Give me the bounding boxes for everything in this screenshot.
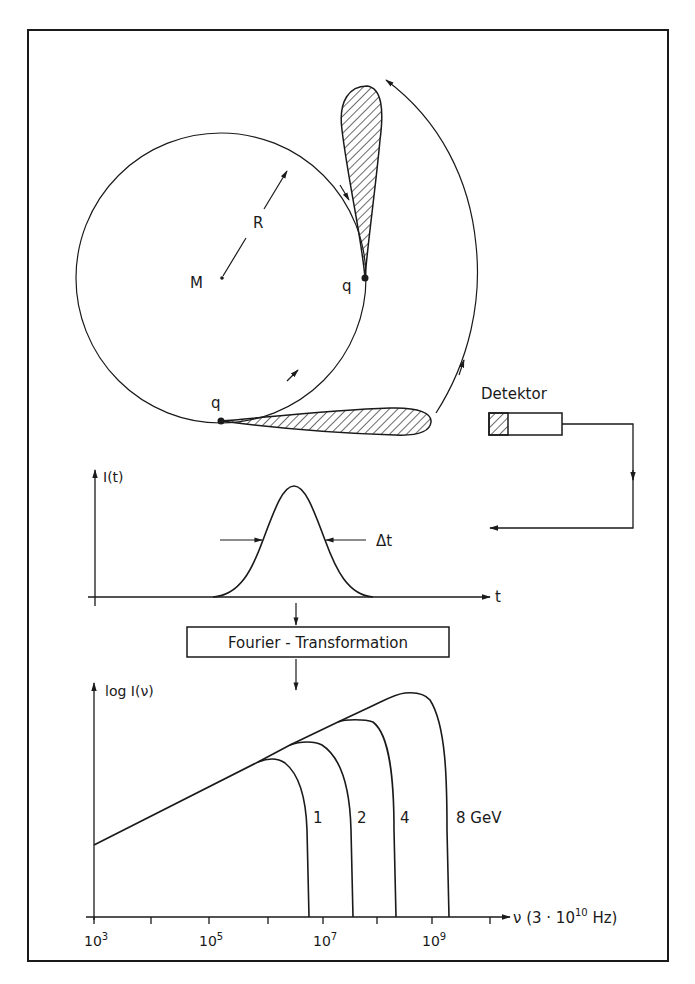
spectrum-x-ticks xyxy=(94,917,490,924)
spectrum-curve-8gev xyxy=(405,693,449,917)
tick-label-1e9: 109 xyxy=(422,931,446,949)
fourier-label: Fourier - Transformation xyxy=(228,634,408,652)
pulse-plot: I(t) t Δt xyxy=(88,469,501,606)
detector-window-hatched xyxy=(489,413,508,435)
spectrum-x-label: ν (3 · 1010 Hz) xyxy=(513,907,617,927)
pulse-x-label: t xyxy=(495,588,501,606)
orbit-direction-arrow-bottom xyxy=(287,370,298,381)
charge-point-upper xyxy=(362,275,369,282)
detector-signal-line xyxy=(490,424,633,528)
center-label: M xyxy=(190,274,203,292)
spectrum-curve-1gev xyxy=(258,759,309,917)
radiation-path-arc xyxy=(386,80,477,413)
curve-label-4: 4 xyxy=(400,809,410,827)
radius-arrow xyxy=(264,171,287,209)
spectrum-curve-4gev xyxy=(338,720,396,917)
curve-label-1: 1 xyxy=(313,809,323,827)
pulse-y-label: I(t) xyxy=(103,469,124,485)
charge-label-lower: q xyxy=(211,394,221,412)
radiation-lobe-upper xyxy=(341,86,382,278)
center-point xyxy=(220,276,224,280)
radiation-lobe-lower xyxy=(221,408,431,435)
spectrum-plot: log I(ν) 103 105 107 109 ν (3 · 1010 Hz)… xyxy=(84,683,617,949)
tick-label-1e3: 103 xyxy=(84,931,108,949)
fwhm-label: Δt xyxy=(376,532,392,550)
tick-label-1e7: 107 xyxy=(313,931,337,949)
spectrum-curve-2gev xyxy=(290,742,353,917)
detector-label: Detektor xyxy=(481,385,548,403)
curve-label-8gev: 8 GeV xyxy=(456,809,502,827)
radius-label: R xyxy=(253,214,263,232)
curve-label-2: 2 xyxy=(357,809,367,827)
tick-label-1e5: 105 xyxy=(199,931,223,949)
fourier-transform-step: Fourier - Transformation xyxy=(187,603,449,690)
charge-label-upper: q xyxy=(342,277,352,295)
synchrotron-radiation-figure: M R q q Detektor I(t) t Δt xyxy=(0,0,695,984)
charge-point-lower xyxy=(218,418,225,425)
pulse-curve xyxy=(213,486,373,597)
orbit-diagram: M R q q xyxy=(76,80,477,435)
detector-group: Detektor xyxy=(481,385,633,528)
radius-line-lower xyxy=(223,238,246,276)
spectrum-y-label: log I(ν) xyxy=(105,683,154,699)
